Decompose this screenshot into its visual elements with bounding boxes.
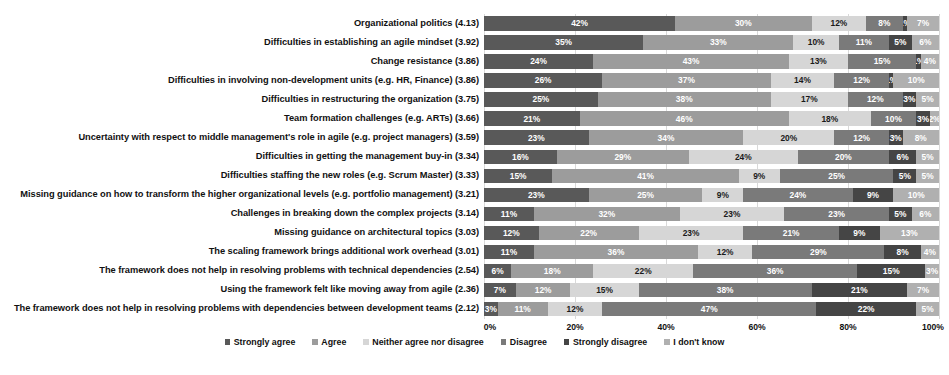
category-label: Difficulties in establishing an agile mi… [0,38,484,48]
segment-value-label: 3% [903,95,915,103]
segment-value-label: 15% [883,267,900,275]
category-label: Difficulties in restructuring the organi… [0,95,484,105]
bar-segment: 20% [743,130,834,145]
legend-item[interactable]: Strongly disagree [564,337,647,347]
segment-value-label: 41% [637,172,654,180]
bar-segment: 23% [639,226,744,241]
bar-segment: 30% [675,16,812,31]
bar-segment: 8% [884,245,920,260]
legend-swatch-icon [501,339,507,345]
segment-value-label: 22% [635,267,652,275]
legend-label: Neither agree nor disagree [372,337,483,347]
segment-value-label: 15% [874,57,891,65]
bar-segment: 7% [907,283,939,298]
bar-segment: 12% [548,302,603,317]
segment-value-label: 11% [501,210,517,218]
bar-segment: 23% [484,188,589,203]
segment-value-label: 32% [598,210,615,218]
bar-segment: 22% [539,226,639,241]
x-axis: 0%20%40%60%80%100% [484,322,939,336]
bar-segment: 36% [693,264,857,279]
bar-segment: 13% [789,54,848,69]
chart-row: The framework does not help in resolving… [0,300,949,319]
bar-segment: 6% [912,35,939,50]
segment-value-label: 13% [810,57,827,65]
category-label: Uncertainty with respect to middle manag… [0,133,484,143]
bar-segment: 3% [889,130,903,145]
segment-value-label: 23% [828,210,845,218]
segment-value-label: 21% [783,229,800,237]
segment-value-label: 25% [637,191,654,199]
bar-segment: 21% [812,283,908,298]
bar-segment: 22% [593,264,693,279]
bar-segment: 12% [834,73,889,88]
segment-value-label: 30% [735,19,752,27]
legend-item[interactable]: Strongly agree [225,337,296,347]
bar-segment: 38% [598,92,771,107]
stacked-bar: 12%22%23%21%9%13% [484,226,939,241]
segment-value-label: 23% [683,229,700,237]
segment-value-label: 4% [924,57,936,65]
bar-segment: 24% [689,150,798,165]
chart-row: Uncertainty with respect to middle manag… [0,128,949,147]
segment-value-label: 11% [515,305,531,313]
category-label: Using the framework felt like moving awa… [0,285,484,295]
segment-value-label: 34% [658,134,675,142]
legend-item[interactable]: Neither agree nor disagree [363,337,483,347]
bar-segment: 34% [589,130,744,145]
legend-swatch-icon [225,339,231,345]
bar-segment: 7% [484,283,516,298]
bar-segment: 6% [912,207,939,222]
segment-value-label: 3% [485,305,497,313]
stacked-bar: 23%25%9%24%9%10% [484,188,939,203]
segment-value-label: 5% [899,172,911,180]
segment-value-label: 38% [676,95,693,103]
segment-value-label: 10% [908,76,925,84]
bar-segment: 10% [793,35,839,50]
chart-row: Difficulties in getting the management b… [0,147,949,166]
segment-value-label: 16% [512,153,529,161]
segment-value-label: 29% [614,153,631,161]
stacked-bar: 26%37%14%12%1%10% [484,73,939,88]
bar-segment: 33% [643,35,793,50]
segment-value-label: 20% [780,134,797,142]
legend-swatch-icon [363,339,369,345]
segment-value-label: 4% [924,248,936,256]
segment-value-label: 10% [808,38,825,46]
bar-segment: 5% [893,169,916,184]
bar-track: 3%11%12%47%22%5% [484,300,939,319]
stacked-bar: 24%43%13%15%1%4% [484,54,939,69]
legend-item[interactable]: I don't know [664,337,724,347]
bar-segment: 36% [534,245,698,260]
chart-legend: Strongly agreeAgreeNeither agree nor dis… [0,337,949,347]
legend-item[interactable]: Disagree [501,337,547,347]
chart-row: Using the framework felt like moving awa… [0,281,949,300]
bar-segment: 12% [516,283,571,298]
bar-segment: 25% [589,188,703,203]
segment-value-label: 15% [510,172,527,180]
legend-item[interactable]: Agree [312,337,346,347]
segment-value-label: 25% [828,172,845,180]
segment-value-label: 6% [919,210,931,218]
segment-value-label: 2% [930,115,939,123]
segment-value-label: 24% [530,57,547,65]
segment-value-label: 23% [724,210,741,218]
bar-track: 11%32%23%23%5%6% [484,204,939,223]
bar-segment: 5% [916,169,939,184]
bar-segment: 12% [484,226,539,241]
bar-segment: 41% [552,169,739,184]
stacked-bar: 3%11%12%47%22%5% [484,302,939,317]
segment-value-label: 24% [790,191,807,199]
chart-row: Missing guidance on architectural topics… [0,224,949,243]
bar-segment: 3% [903,92,917,107]
bar-track: 15%41%9%25%5%5% [484,166,939,185]
bar-segment: 14% [771,73,835,88]
segment-value-label: 9% [867,191,879,199]
category-label: The framework does not help in resolving… [0,266,484,276]
bar-segment: 10% [893,188,939,203]
category-label: Organizational politics (4.13) [0,19,484,29]
chart-row: The framework does not help in resolving… [0,262,949,281]
category-label: Challenges in breaking down the complex … [0,209,484,219]
segment-value-label: 22% [858,305,875,313]
stacked-bar: 15%41%9%25%5%5% [484,169,939,184]
